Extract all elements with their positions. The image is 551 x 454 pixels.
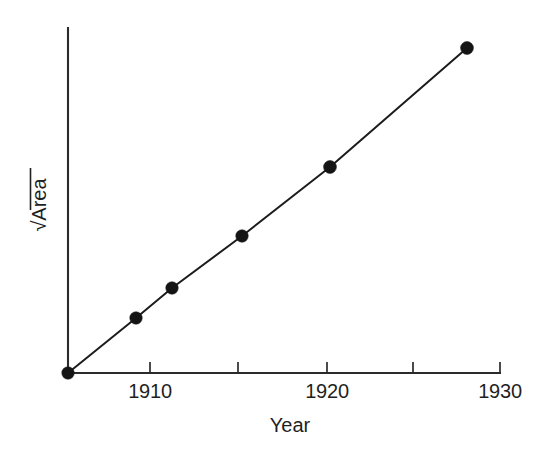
data-point xyxy=(324,161,337,174)
x-tick-label-1930: 1930 xyxy=(478,380,522,402)
x-tick-label-1910: 1910 xyxy=(128,380,172,402)
chart-figure: 1910 1920 1930 √Area Year xyxy=(0,0,551,454)
data-point xyxy=(130,312,142,324)
x-axis-tick-labels: 1910 1920 1930 xyxy=(128,380,522,402)
data-series-line xyxy=(68,48,467,373)
data-point xyxy=(461,42,474,55)
x-axis-title: Year xyxy=(270,414,311,436)
data-point xyxy=(166,282,178,294)
line-chart-canvas: 1910 1920 1930 √Area Year xyxy=(0,0,551,454)
x-tick-label-1920: 1920 xyxy=(305,380,349,402)
data-point xyxy=(62,367,74,379)
data-point xyxy=(236,230,248,242)
x-axis-ticks xyxy=(150,362,500,373)
y-axis-title-group: √Area xyxy=(28,168,50,232)
